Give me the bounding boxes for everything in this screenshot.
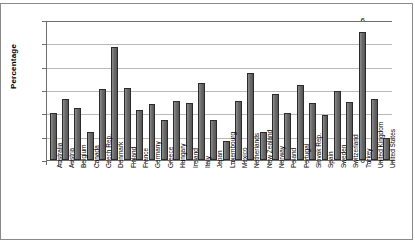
bar-slot — [183, 21, 195, 160]
x-tick-mark — [133, 161, 134, 165]
x-tick-mark — [46, 161, 47, 165]
x-axis-category-label: Japan — [216, 150, 223, 168]
x-tick-mark — [207, 161, 208, 165]
bar-slot — [146, 21, 158, 160]
x-axis-category-label: Spain — [327, 151, 334, 168]
x-tick-mark — [58, 161, 59, 165]
bars-layer — [47, 21, 392, 160]
x-tick-mark — [157, 161, 158, 165]
x-tick-mark — [293, 161, 294, 165]
plot-area — [46, 21, 392, 161]
x-tick-mark — [355, 161, 356, 165]
bar-slot — [121, 21, 133, 160]
bar-slot — [134, 21, 146, 160]
x-tick-mark — [256, 161, 257, 165]
x-tick-mark — [380, 161, 381, 165]
x-tick-mark — [330, 161, 331, 165]
bar-slot — [294, 21, 306, 160]
x-axis-category-label: Turkey — [365, 148, 372, 168]
x-tick-mark — [95, 161, 96, 165]
bar-slot — [282, 21, 294, 160]
y-axis-title: Percentage — [9, 32, 18, 102]
x-tick-mark — [170, 161, 171, 165]
x-tick-mark — [120, 161, 121, 165]
x-tick-mark — [392, 161, 393, 165]
x-tick-mark — [268, 161, 269, 165]
x-tick-mark — [281, 161, 282, 165]
bar-slot — [331, 21, 343, 160]
bar[interactable] — [198, 83, 205, 160]
bar-slot — [47, 21, 59, 160]
bar-slot — [158, 21, 170, 160]
bar-slot — [171, 21, 183, 160]
bar-slot — [72, 21, 84, 160]
x-tick-mark — [318, 161, 319, 165]
x-tick-mark — [306, 161, 307, 165]
x-tick-mark — [231, 161, 232, 165]
x-tick-mark — [367, 161, 368, 165]
x-tick-mark — [83, 161, 84, 165]
x-tick-mark — [219, 161, 220, 165]
x-axis-category-label: Ireland — [192, 148, 199, 168]
x-tick-mark — [108, 161, 109, 165]
x-tick-mark — [145, 161, 146, 165]
bar-slot — [195, 21, 207, 160]
bar[interactable] — [359, 32, 366, 160]
bar-slot — [59, 21, 71, 160]
x-tick-mark — [343, 161, 344, 165]
bar-slot — [84, 21, 96, 160]
x-tick-mark — [71, 161, 72, 165]
x-tick-mark — [182, 161, 183, 165]
bar-slot — [208, 21, 220, 160]
bar-chart-figure: Percentage 0123456 AustraliaAustriaBelgi… — [0, 0, 415, 249]
x-tick-mark — [194, 161, 195, 165]
x-tick-mark — [244, 161, 245, 165]
